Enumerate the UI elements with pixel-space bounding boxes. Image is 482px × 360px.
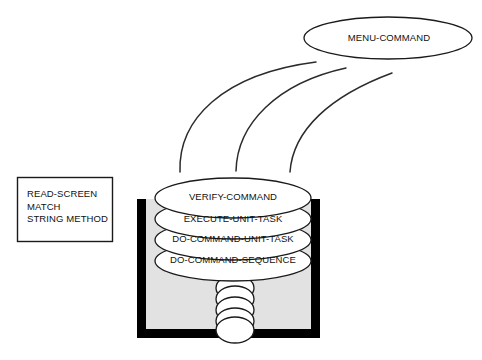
coil-loop xyxy=(216,317,254,343)
container-left-wall xyxy=(137,199,146,338)
arc-left-connector xyxy=(180,62,316,172)
read-screen-box[interactable] xyxy=(18,178,113,242)
stack-layer-group xyxy=(155,178,311,281)
container-right-wall xyxy=(311,199,320,338)
diagram-canvas xyxy=(0,0,482,360)
menu-command-ellipse[interactable] xyxy=(304,17,472,59)
arc-right-connector xyxy=(290,73,392,172)
coil-spring-icon xyxy=(216,275,254,343)
arc-middle-connector xyxy=(236,68,346,171)
layer-ellipse-verify-command[interactable] xyxy=(155,178,311,218)
connector-group xyxy=(180,62,392,172)
